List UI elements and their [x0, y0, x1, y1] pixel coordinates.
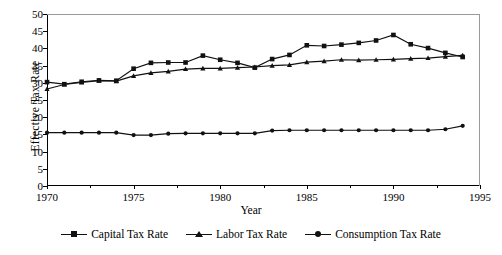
- data-point-marker: [339, 128, 343, 132]
- legend-item[interactable]: Consumption Tax Rate: [305, 228, 441, 240]
- data-point-marker: [132, 133, 136, 137]
- y-tick-label: 10: [32, 146, 43, 158]
- data-point-marker: [166, 60, 171, 65]
- data-point-marker: [114, 131, 118, 135]
- data-point-marker: [183, 131, 187, 135]
- data-point-marker: [149, 61, 154, 66]
- data-point-marker: [356, 41, 361, 46]
- data-point-marker: [305, 43, 310, 48]
- data-point-marker: [287, 53, 292, 58]
- legend-item-label: Consumption Tax Rate: [335, 228, 441, 240]
- data-point-marker: [131, 66, 136, 71]
- data-point-marker: [80, 131, 84, 135]
- chart-figure: Effective Tax Rate 05101520253035404550 …: [0, 0, 502, 255]
- data-series-layer: [47, 14, 480, 186]
- data-point-marker: [391, 128, 395, 132]
- y-tick-label: 25: [32, 94, 43, 106]
- data-point-marker: [235, 131, 239, 135]
- data-point-marker: [183, 60, 188, 65]
- y-tick-label: 40: [32, 42, 43, 54]
- x-tick-label: 1970: [36, 191, 58, 203]
- data-point-marker: [97, 131, 101, 135]
- data-point-marker: [305, 128, 309, 132]
- x-tick-label: 1990: [382, 191, 404, 203]
- y-tick-label: 30: [32, 77, 43, 89]
- data-point-marker: [62, 131, 66, 135]
- data-point-marker: [270, 57, 275, 62]
- series-consumption-tax-rate: [45, 124, 465, 137]
- y-tick-label: 20: [32, 111, 43, 123]
- series-line: [47, 55, 463, 89]
- chart-legend: Capital Tax RateLabor Tax RateConsumptio…: [0, 228, 502, 240]
- data-point-marker: [409, 128, 413, 132]
- data-point-marker: [391, 33, 396, 38]
- legend-item[interactable]: Labor Tax Rate: [186, 228, 287, 240]
- data-point-marker: [235, 61, 240, 66]
- plot-area: 05101520253035404550 1970197519801985199…: [47, 14, 480, 186]
- data-point-marker: [201, 53, 206, 58]
- legend-marker-triangle-icon: [186, 229, 212, 239]
- data-point-marker: [443, 127, 447, 131]
- data-point-marker: [322, 44, 327, 49]
- x-tick-label: 1975: [123, 191, 145, 203]
- legend-item-label: Capital Tax Rate: [91, 228, 168, 240]
- data-point-marker: [408, 42, 413, 47]
- data-point-marker: [253, 131, 257, 135]
- data-point-marker: [166, 132, 170, 136]
- series-labor-tax-rate: [44, 53, 465, 91]
- data-point-marker: [201, 131, 205, 135]
- x-tick-label: 1995: [469, 191, 491, 203]
- data-point-marker: [218, 57, 223, 62]
- data-point-marker: [218, 131, 222, 135]
- y-tick-label: 45: [32, 25, 43, 37]
- data-point-marker: [357, 128, 361, 132]
- data-point-marker: [461, 124, 465, 128]
- legend-marker-square-icon: [61, 229, 87, 239]
- x-tick-label: 1985: [296, 191, 318, 203]
- y-tick-label: 50: [32, 8, 43, 20]
- data-point-marker: [339, 42, 344, 47]
- y-tick-label: 35: [32, 60, 43, 72]
- data-point-marker: [374, 128, 378, 132]
- x-tick-mark: [480, 185, 481, 189]
- legend-item-label: Labor Tax Rate: [216, 228, 287, 240]
- x-tick-label: 1980: [209, 191, 231, 203]
- data-point-marker: [287, 128, 291, 132]
- data-point-marker: [270, 129, 274, 133]
- legend-marker-circle-icon: [305, 229, 331, 239]
- data-point-marker: [322, 128, 326, 132]
- legend-item[interactable]: Capital Tax Rate: [61, 228, 168, 240]
- data-point-marker: [374, 38, 379, 43]
- x-axis-label: Year: [0, 204, 502, 216]
- data-point-marker: [426, 46, 431, 51]
- data-point-marker: [45, 131, 49, 135]
- y-tick-label: 15: [32, 128, 43, 140]
- data-point-marker: [45, 80, 50, 85]
- data-point-marker: [426, 128, 430, 132]
- data-point-marker: [149, 133, 153, 137]
